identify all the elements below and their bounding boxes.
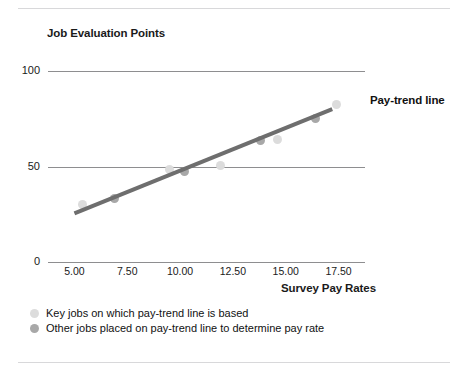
pay-trend-chart-figure: Job Evaluation Points 1005005.007.5010.0… <box>0 0 465 378</box>
x-tick-label-10-00: 10.00 <box>157 265 203 277</box>
gridline-50 <box>48 167 365 168</box>
y-tick-label-100: 100 <box>4 64 40 76</box>
y-tick-label-0: 0 <box>4 255 40 267</box>
legend-label-1: Key jobs on which pay-trend line is base… <box>46 307 248 319</box>
gridline-0 <box>48 262 365 263</box>
data-point-key-job-3 <box>216 161 225 170</box>
y-tick-label-50: 50 <box>4 160 40 172</box>
chart-legend: Key jobs on which pay-trend line is base… <box>30 306 324 336</box>
data-point-other-job-1 <box>110 194 119 203</box>
x-tick-label-15-00: 15.00 <box>263 265 309 277</box>
data-point-other-job-3 <box>256 136 265 145</box>
x-axis-caption: Survey Pay Rates <box>281 282 376 294</box>
pay-trend-line-label: Pay-trend line <box>370 94 445 106</box>
x-tick-label-7-50: 7.50 <box>104 265 150 277</box>
legend-row-1: Key jobs on which pay-trend line is base… <box>30 306 324 320</box>
data-point-other-job-4 <box>311 114 320 123</box>
legend-marker-icon-2 <box>30 324 39 333</box>
data-point-other-job-2 <box>180 167 189 176</box>
data-point-key-job-1 <box>78 200 87 209</box>
x-tick-label-5-00: 5.00 <box>51 265 97 277</box>
gridline-100 <box>48 71 365 72</box>
legend-row-2: Other jobs placed on pay-trend line to d… <box>30 321 324 335</box>
data-point-key-job-2 <box>165 165 174 174</box>
data-point-key-job-4 <box>273 135 282 144</box>
x-tick-label-12-50: 12.50 <box>210 265 256 277</box>
legend-label-2: Other jobs placed on pay-trend line to d… <box>46 322 324 334</box>
data-point-key-job-5 <box>332 100 341 109</box>
legend-marker-icon-1 <box>30 309 39 318</box>
x-tick-label-17-50: 17.50 <box>316 265 362 277</box>
